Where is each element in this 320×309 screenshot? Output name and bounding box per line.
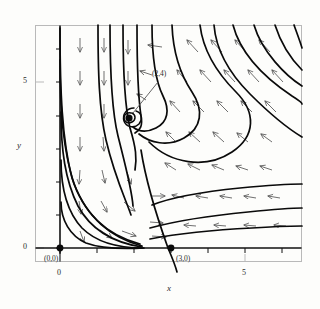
y-axis-title: y — [17, 140, 21, 150]
x-tick-label-0: 0 — [57, 268, 61, 277]
x-tick-label-5: 5 — [242, 268, 246, 277]
y-tick-label-5: 5 — [23, 76, 27, 85]
trajectory-curves — [60, 25, 302, 272]
equilibrium-label-origin: (0,0) — [44, 254, 58, 263]
equilibrium-point-origin — [57, 245, 64, 252]
leader-line-2-4 — [133, 82, 158, 113]
equilibrium-point-2-4 — [125, 114, 132, 121]
equilibrium-label-2-4: (2,4) — [152, 69, 166, 78]
phase-portrait-figure: 0 5 0 5 y x (0,0) (3,0) (2,4) — [0, 0, 320, 309]
y-axis — [36, 26, 61, 262]
x-axis-title: x — [167, 283, 171, 293]
equilibrium-label-3-0: (3,0) — [176, 254, 190, 263]
y-tick-label-0: 0 — [23, 242, 27, 251]
equilibrium-point-3-0 — [168, 245, 175, 252]
